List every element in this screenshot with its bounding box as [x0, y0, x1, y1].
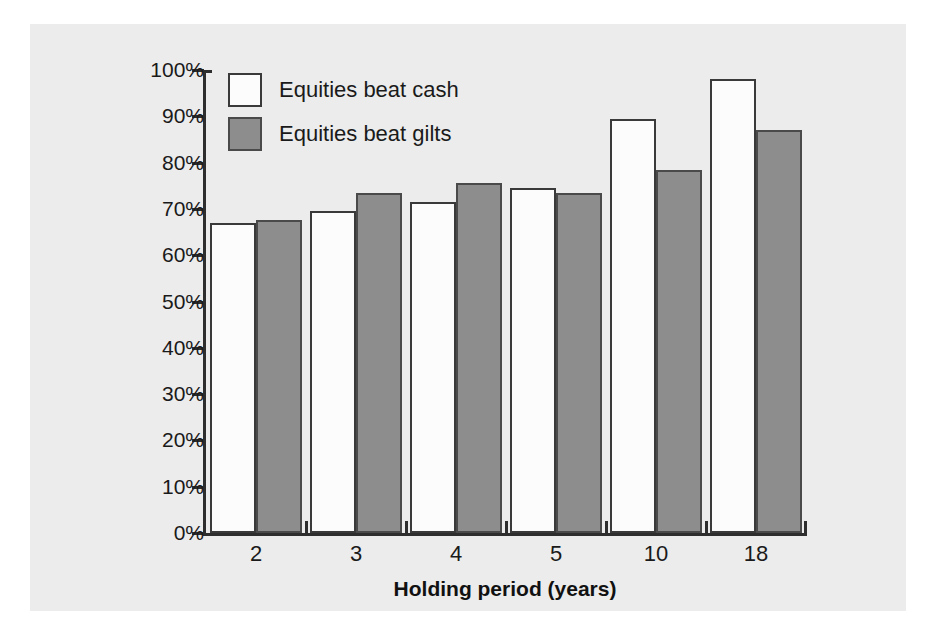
- bar-cash-3: [310, 211, 356, 533]
- bar-gilts-4: [456, 183, 502, 533]
- x-axis-tick-label: 3: [316, 543, 396, 565]
- legend-label-cash: Equities beat cash: [279, 79, 459, 101]
- x-axis-end-cap: [804, 521, 807, 536]
- y-axis-tick-label: 40%: [126, 337, 204, 358]
- bar-cash-4: [410, 202, 456, 533]
- legend-swatch-icon-gilts: [228, 117, 262, 151]
- y-axis-tick-label: 60%: [126, 244, 204, 265]
- x-axis-tick: [405, 521, 408, 536]
- legend-entry-equities-beat-gilts: Equities beat gilts: [228, 112, 459, 156]
- chart-legend: Equities beat cash Equities beat gilts: [228, 68, 459, 156]
- y-axis-tick-label: 90%: [126, 105, 204, 126]
- y-axis-tick-label: 0%: [126, 522, 204, 543]
- bar-gilts-5: [556, 193, 602, 533]
- y-axis-top-cap: [203, 70, 212, 73]
- bar-gilts-3: [356, 193, 402, 533]
- x-axis-tick-label: 2: [216, 543, 296, 565]
- legend-entry-equities-beat-cash: Equities beat cash: [228, 68, 459, 112]
- y-axis-tick-label: 20%: [126, 429, 204, 450]
- legend-swatch-icon-cash: [228, 73, 262, 107]
- bar-gilts-18: [756, 130, 802, 533]
- x-axis-tick: [705, 521, 708, 536]
- y-axis-tick-label: 50%: [126, 291, 204, 312]
- bar-gilts-10: [656, 170, 702, 533]
- x-axis-title: Holding period (years): [203, 578, 807, 599]
- x-axis-tick-label: 10: [616, 543, 696, 565]
- legend-label-gilts: Equities beat gilts: [279, 123, 451, 145]
- x-axis-tick-label: 18: [716, 543, 796, 565]
- y-axis-tick-label: 10%: [126, 476, 204, 497]
- y-axis-tick-label: 70%: [126, 198, 204, 219]
- bar-cash-2: [210, 223, 256, 533]
- bar-gilts-2: [256, 220, 302, 533]
- x-axis-tick-label: 5: [516, 543, 596, 565]
- plot-area: 100%90%80%70%60%50%40%30%20%10%0% 234510…: [0, 0, 944, 641]
- y-axis-tick-label: 80%: [126, 152, 204, 173]
- bar-cash-10: [610, 119, 656, 533]
- y-axis-tick-label: 30%: [126, 383, 204, 404]
- y-axis-tick-label: 100%: [126, 59, 204, 80]
- x-axis-tick: [305, 521, 308, 536]
- figure: 100%90%80%70%60%50%40%30%20%10%0% 234510…: [0, 0, 944, 641]
- x-axis-tick: [505, 521, 508, 536]
- bar-cash-18: [710, 79, 756, 533]
- x-axis-tick: [605, 521, 608, 536]
- x-axis-tick-label: 4: [416, 543, 496, 565]
- bar-cash-5: [510, 188, 556, 533]
